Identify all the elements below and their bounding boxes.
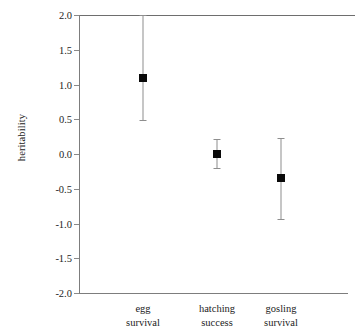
y-tick-mark — [74, 15, 79, 16]
error-bar-cap-lower — [214, 168, 221, 169]
heritability-error-bar-chart: heritability 2.01.51.00.50.0-0.5-1.0-1.5… — [0, 0, 356, 334]
error-bar-cap-lower — [140, 120, 147, 121]
x-category-label-0: eggsurvival — [126, 302, 160, 329]
error-bar — [143, 15, 144, 120]
y-tick-label: 0.5 — [59, 114, 72, 125]
y-axis-line — [79, 15, 80, 294]
y-tick-mark — [74, 50, 79, 51]
data-point-marker — [139, 74, 147, 82]
y-tick-mark — [74, 189, 79, 190]
y-tick-label: 2.0 — [59, 10, 72, 21]
error-bar-cap-upper — [140, 15, 147, 16]
error-bar-cap-upper — [278, 138, 285, 139]
error-bar-cap-lower — [278, 219, 285, 220]
y-tick-mark — [74, 293, 79, 294]
y-tick-label: 1.0 — [59, 79, 72, 90]
y-tick-label: 1.5 — [59, 44, 72, 55]
y-axis-title: heritability — [16, 93, 27, 183]
y-tick-label: -0.5 — [55, 183, 72, 194]
x-axis-line — [79, 293, 348, 294]
error-bar-cap-upper — [214, 139, 221, 140]
y-tick-mark — [74, 154, 79, 155]
x-category-label-2: goslingsurvival — [264, 302, 298, 329]
zero-reference-line — [79, 15, 355, 16]
x-category-label-line: gosling — [264, 302, 298, 316]
plot-area: 2.01.51.00.50.0-0.5-1.0-1.5-2.0 eggsurvi… — [79, 15, 348, 293]
x-category-label-line: egg — [126, 302, 160, 316]
y-tick-label: 0.0 — [59, 149, 72, 160]
y-tick-label: -1.5 — [55, 253, 72, 264]
x-category-label-line: success — [199, 316, 235, 330]
x-category-label-line: hatching — [199, 302, 235, 316]
x-category-label-line: survival — [126, 316, 160, 330]
y-tick-mark — [74, 224, 79, 225]
x-category-label-line: survival — [264, 316, 298, 330]
data-point-marker — [277, 174, 285, 182]
y-tick-mark — [74, 119, 79, 120]
data-point-marker — [213, 150, 221, 158]
x-category-label-1: hatchingsuccess — [199, 302, 235, 329]
y-tick-mark — [74, 258, 79, 259]
y-tick-label: -2.0 — [55, 288, 72, 299]
y-tick-label: -1.0 — [55, 218, 72, 229]
y-tick-mark — [74, 85, 79, 86]
